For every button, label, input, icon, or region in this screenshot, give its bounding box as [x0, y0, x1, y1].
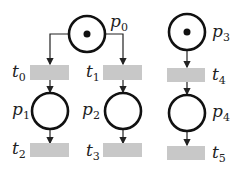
- label-t4: t4: [212, 64, 226, 87]
- transition-t0[interactable]: [30, 65, 69, 80]
- transition-t1[interactable]: [103, 65, 142, 80]
- token-p3: [184, 29, 191, 36]
- arc-p0-t1: [105, 34, 123, 64]
- place-p1[interactable]: [32, 93, 68, 129]
- transition-t2[interactable]: [30, 143, 69, 157]
- label-p1: p1: [12, 99, 30, 122]
- token-p0: [84, 31, 91, 38]
- transition-t5[interactable]: [167, 146, 205, 160]
- label-t3: t3: [86, 140, 100, 163]
- label-t2: t2: [12, 138, 26, 161]
- place-p2[interactable]: [105, 93, 141, 129]
- label-p2: p2: [82, 99, 100, 122]
- label-p0: p0: [110, 11, 128, 34]
- label-t0: t0: [12, 61, 26, 84]
- arc-p0-t0: [50, 34, 69, 64]
- transition-t3[interactable]: [103, 143, 142, 157]
- transition-t4[interactable]: [167, 68, 205, 82]
- petri-net-diagram: p0 p3 p1 p2 p4 t0 t1 t2 t3 t4 t5: [0, 0, 238, 172]
- label-p3: p3: [212, 21, 230, 44]
- label-t5: t5: [212, 142, 226, 165]
- place-p4[interactable]: [169, 95, 205, 131]
- label-t1: t1: [86, 61, 100, 84]
- label-p4: p4: [212, 101, 230, 124]
